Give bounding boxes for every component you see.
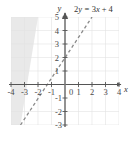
coordinate-plane-svg: -4 -3 -2 -1 0 1 2 3 4 5 4 3 2 1 -1 -2 -3… [0, 0, 131, 145]
equation-label: 2y=3x+4 [74, 4, 113, 14]
x-tick-label--4: -4 [7, 87, 15, 97]
equation-equals: = [85, 4, 90, 14]
x-tick-label--3: -3 [21, 87, 28, 97]
equation-var-x: x [95, 4, 100, 14]
x-tick-label-1: 1 [76, 87, 80, 97]
equation-plus: + [102, 4, 107, 14]
y-tick-label-3: 3 [55, 39, 59, 49]
x-tick-label-4: 4 [117, 87, 122, 97]
y-tick-label--2: -2 [55, 107, 62, 117]
y-tick-label--3: -3 [55, 120, 62, 130]
x-axis-label: x [123, 84, 128, 94]
origin-label: 0 [69, 87, 73, 97]
graph-figure: -4 -3 -2 -1 0 1 2 3 4 5 4 3 2 1 -1 -2 -3… [0, 0, 131, 145]
equation-var-y: y [77, 4, 82, 14]
y-tick-label-2: 2 [55, 53, 59, 63]
equation-constant: 4 [108, 4, 113, 14]
y-axis-label: y [57, 3, 62, 13]
y-tick-label-1: 1 [55, 66, 59, 76]
x-tick-label-3: 3 [103, 87, 107, 97]
x-tick-label--2: -2 [34, 87, 41, 97]
y-tick-label--1: -1 [55, 93, 62, 103]
y-tick-label-5: 5 [55, 12, 59, 22]
x-tick-label-2: 2 [90, 87, 94, 97]
